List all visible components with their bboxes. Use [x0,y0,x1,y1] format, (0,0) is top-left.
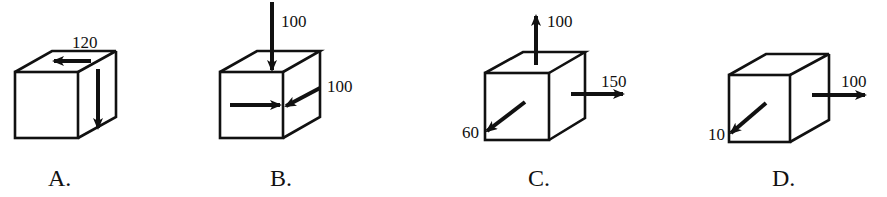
option-d-label: D. [772,165,795,191]
cube-b-arrow-diagonal-icon [286,88,320,106]
cube-c-front-force-label: 60 [462,123,479,142]
cube-c: 100 150 60 [462,12,627,142]
cube-b-right-face [283,51,320,138]
cube-b-side-force-label: 100 [327,77,353,96]
cube-d: 100 10 [708,54,867,144]
cube-d-front-force-label: 10 [708,125,725,144]
cube-a: 120 [15,33,116,138]
cube-a-front-face [15,72,78,138]
cube-c-right-force-label: 150 [601,72,627,91]
cube-d-arrow-diagonal-icon [731,103,766,133]
option-a-label: A. [48,165,71,191]
option-b-label: B. [270,165,292,191]
cube-b: 100 100 [220,2,353,138]
cube-b-top-force-label: 100 [281,12,307,31]
cube-d-top-face [729,54,829,75]
option-c-label: C. [528,165,550,191]
cube-d-right-face [790,54,829,142]
cube-c-top-force-label: 100 [547,12,573,31]
cube-c-arrow-diagonal-icon [487,102,525,131]
cube-forces-diagram: 120 100 100 100 150 60 100 10 A. B. C. D… [0,0,887,197]
cube-d-right-force-label: 100 [841,72,867,91]
cube-a-force-label: 120 [72,33,98,52]
